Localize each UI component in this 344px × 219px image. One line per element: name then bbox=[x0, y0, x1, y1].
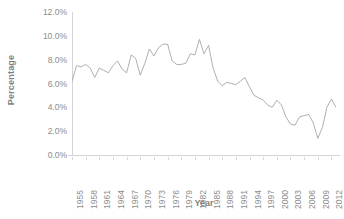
x-axis-tick-mark bbox=[277, 157, 278, 160]
x-axis-tick-mark bbox=[181, 157, 182, 160]
y-axis-title: Percentage bbox=[0, 0, 22, 160]
y-axis-tick-label: 6.0% bbox=[48, 79, 67, 88]
series-line-percentage bbox=[72, 39, 336, 138]
x-axis-tick-mark bbox=[222, 157, 223, 160]
y-axis-tick-label: 12.0% bbox=[43, 8, 67, 17]
x-axis-tick-mark bbox=[195, 157, 196, 160]
x-axis-tick-mark bbox=[86, 157, 87, 160]
x-axis-tick-labels: 1955195819611964196719701973197619791982… bbox=[72, 157, 336, 191]
x-axis-title: Year bbox=[72, 198, 336, 208]
line-chart: Percentage 12.0%10.0%8.0%6.0%4.0%2.0%0.0… bbox=[0, 0, 344, 219]
x-axis-tick-mark bbox=[236, 157, 237, 160]
x-axis-tick-mark bbox=[127, 157, 128, 160]
x-axis-tick-mark bbox=[113, 157, 114, 160]
y-axis-tick-label: 8.0% bbox=[48, 55, 67, 64]
x-axis-tick-mark bbox=[72, 157, 73, 160]
x-axis-tick-mark bbox=[250, 157, 251, 160]
x-axis-line bbox=[68, 155, 340, 156]
x-axis-tick-mark bbox=[304, 157, 305, 160]
y-axis-tick-label: 0.0% bbox=[48, 151, 67, 160]
x-axis-tick-mark bbox=[209, 157, 210, 160]
x-axis-tick-mark bbox=[331, 157, 332, 160]
x-axis-tick-mark bbox=[99, 157, 100, 160]
x-axis-tick-mark bbox=[154, 157, 155, 160]
plot-area bbox=[72, 12, 336, 155]
x-axis-tick-mark bbox=[263, 157, 264, 160]
x-axis-tick-mark bbox=[290, 157, 291, 160]
x-axis-tick-label: 2012 bbox=[335, 190, 344, 209]
y-axis-title-label: Percentage bbox=[6, 55, 16, 106]
y-axis-tick-label: 2.0% bbox=[48, 127, 67, 136]
x-axis-tick-mark bbox=[318, 157, 319, 160]
data-series-svg bbox=[72, 12, 336, 155]
x-axis-tick-mark bbox=[140, 157, 141, 160]
y-axis-tick-labels: 12.0%10.0%8.0%6.0%4.0%2.0%0.0% bbox=[24, 0, 70, 160]
x-axis-tick-mark bbox=[168, 157, 169, 160]
y-axis-tick-label: 10.0% bbox=[43, 32, 67, 41]
y-axis-tick-label: 4.0% bbox=[48, 103, 67, 112]
